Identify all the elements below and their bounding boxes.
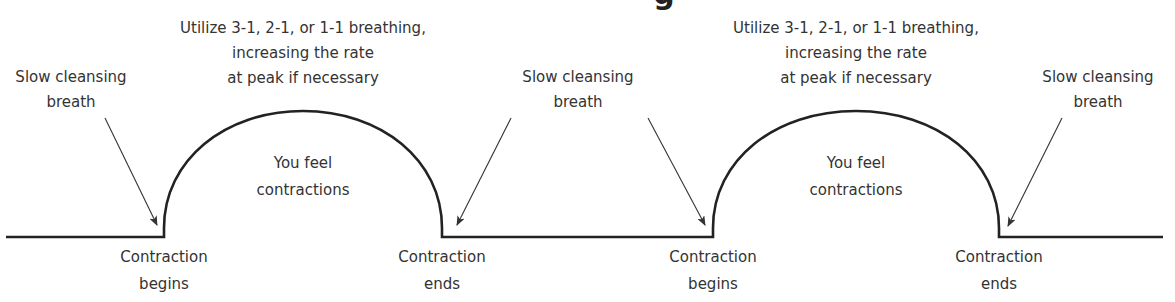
contraction-begins-label-1: Contraction begins [120, 248, 207, 293]
inner-label-line: contractions [810, 181, 903, 199]
peak-label-line: increasing the rate [232, 44, 374, 62]
peak-label-line: at peak if necessary [780, 69, 932, 87]
breath-label-line: breath [1073, 93, 1122, 111]
contraction-begins-label-2: Contraction begins [669, 248, 756, 293]
arrow-icon [105, 118, 157, 225]
peak-label-line: increasing the rate [785, 44, 927, 62]
breath-label-left: Slow cleansing breath [15, 68, 126, 111]
peak-label-2: Utilize 3-1, 2-1, or 1-1 breathing, incr… [733, 19, 979, 87]
breath-label-line: Slow cleansing [1042, 68, 1153, 86]
breath-label-line: Slow cleansing [15, 68, 126, 86]
title-fragment: g [653, 0, 674, 11]
end-label-line: ends [424, 275, 460, 293]
contraction-ends-label-1: Contraction ends [398, 248, 485, 293]
peak-label-line: Utilize 3-1, 2-1, or 1-1 breathing, [733, 19, 979, 37]
arrow-icon [457, 118, 511, 225]
breath-label-line: breath [46, 93, 95, 111]
peak-label-line: at peak if necessary [227, 69, 379, 87]
end-label-line: Contraction [955, 248, 1042, 266]
arrow-icon [1008, 118, 1062, 226]
breathing-contraction-diagram: g Utilize 3-1, 2-1, or 1-1 breathing, in… [0, 0, 1175, 302]
peak-label-line: Utilize 3-1, 2-1, or 1-1 breathing, [180, 19, 426, 37]
breath-label-line: breath [553, 93, 602, 111]
inner-label-1: You feel contractions [257, 154, 350, 199]
contraction-ends-label-2: Contraction ends [955, 248, 1042, 293]
end-label-line: Contraction [398, 248, 485, 266]
start-label-line: begins [688, 275, 738, 293]
start-label-line: Contraction [669, 248, 756, 266]
inner-label-2: You feel contractions [810, 154, 903, 199]
arrow-icon [648, 118, 705, 225]
start-label-line: begins [139, 275, 189, 293]
end-label-line: ends [981, 275, 1017, 293]
breath-label-middle: Slow cleansing breath [522, 68, 633, 111]
breath-label-right: Slow cleansing breath [1042, 68, 1153, 111]
inner-label-line: contractions [257, 181, 350, 199]
start-label-line: Contraction [120, 248, 207, 266]
contraction-curve [6, 111, 1163, 237]
inner-label-line: You feel [273, 154, 333, 172]
inner-label-line: You feel [826, 154, 886, 172]
breath-label-line: Slow cleansing [522, 68, 633, 86]
peak-label-1: Utilize 3-1, 2-1, or 1-1 breathing, incr… [180, 19, 426, 87]
